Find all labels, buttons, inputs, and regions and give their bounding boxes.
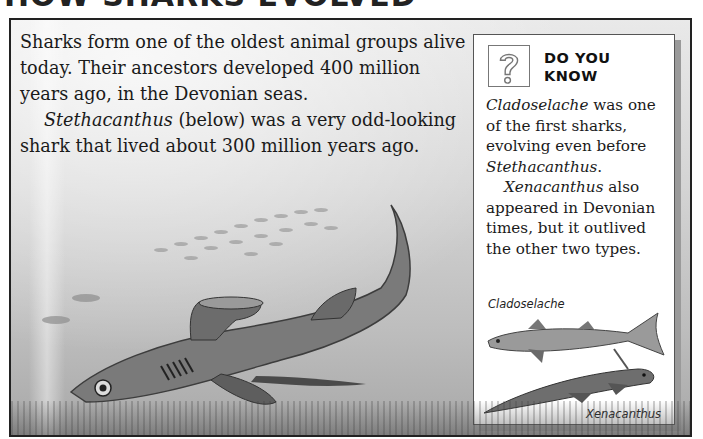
fact-paragraph-2: Xenacanthus also appeared in Devonian ti…	[486, 177, 670, 259]
question-mark-icon	[488, 45, 530, 87]
fish-school	[154, 208, 338, 260]
stethacanthus-shark	[71, 205, 410, 404]
species-name-stethacanthus-ref: Stethacanthus	[486, 158, 597, 176]
fact-box-title: DO YOU KNOW	[544, 49, 654, 85]
main-paragraph-1: Sharks form one of the oldest animal gro…	[20, 29, 472, 107]
fact-title-line-2: KNOW	[544, 67, 654, 85]
do-you-know-box: DO YOU KNOW Cladoselache was one of the …	[473, 34, 675, 425]
stethacanthus-illustration	[11, 170, 481, 437]
main-text: Sharks form one of the oldest animal gro…	[20, 29, 472, 159]
species-name-cladoselache: Cladoselache	[486, 96, 588, 114]
seafloor-plants	[11, 401, 690, 435]
fact-paragraph-1: Cladoselache was one of the first sharks…	[486, 95, 670, 177]
page-heading: HOW SHARKS EVOLVED	[4, 0, 417, 8]
fact-title-line-1: DO YOU	[544, 49, 654, 67]
fact-box-header: DO YOU KNOW	[488, 45, 668, 89]
page-heading-cropped: HOW SHARKS EVOLVED	[0, 0, 703, 8]
species-name-xenacanthus: Xenacanthus	[504, 178, 603, 196]
cladoselache-fish	[488, 313, 664, 363]
small-fish	[42, 294, 100, 324]
main-paragraph-2: Stethacanthus (below) was a very odd-loo…	[20, 107, 472, 159]
illustrated-panel: Sharks form one of the oldest animal gro…	[9, 18, 692, 437]
fact-box-body: Cladoselache was one of the first sharks…	[486, 95, 670, 259]
species-name-stethacanthus: Stethacanthus	[44, 110, 173, 130]
fact-paragraph-1-text-b: .	[597, 158, 602, 176]
